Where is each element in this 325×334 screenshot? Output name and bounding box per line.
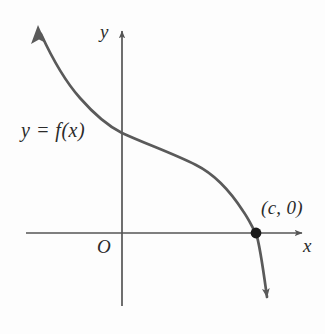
curve-equation-label: y = f(x) (21, 120, 85, 140)
function-graph-figure: y = f(x) (c, 0) x y O (0, 0, 325, 334)
graph-canvas (0, 0, 325, 334)
y-axis-label: y (100, 22, 108, 41)
root-point-label: (c, 0) (261, 198, 303, 217)
curve-start-arrowhead (31, 25, 46, 44)
x-axis-label: x (303, 236, 311, 255)
function-curve (41, 34, 267, 297)
origin-label: O (97, 237, 111, 256)
root-point-dot (251, 228, 262, 239)
